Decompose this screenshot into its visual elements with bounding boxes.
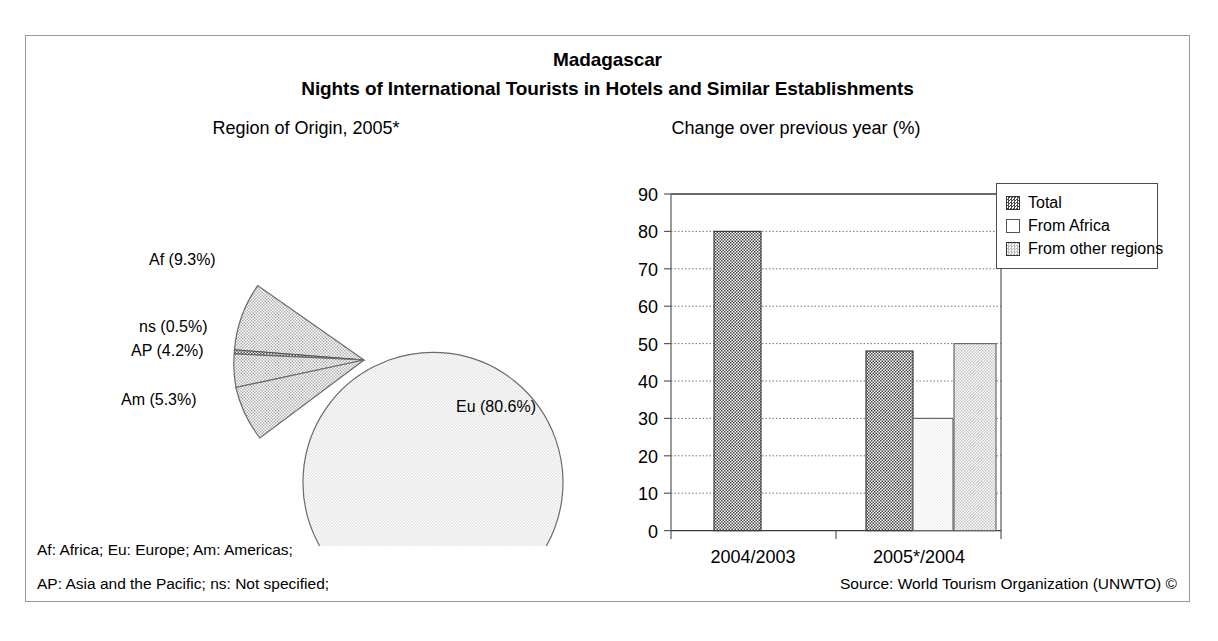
y-tick-0: 0 xyxy=(648,522,658,542)
legend-label-from-africa: From Africa xyxy=(1028,217,1110,235)
legend-swatch-from-other-regions-icon xyxy=(1006,242,1020,256)
y-tick-labels: 90 80 70 60 50 40 30 20 10 0 xyxy=(638,185,658,542)
chart-frame: Madagascar Nights of International Touri… xyxy=(25,35,1190,602)
y-tick-20: 20 xyxy=(638,447,658,467)
page-subtitle: Nights of International Tourists in Hote… xyxy=(26,78,1189,100)
y-tick-40: 40 xyxy=(638,372,658,392)
pie-slice-af xyxy=(235,286,365,360)
pie-chart-heading: Region of Origin, 2005* xyxy=(66,118,546,139)
footnote-abbreviations-line2: AP: Asia and the Pacific; ns: Not specif… xyxy=(37,575,329,593)
legend-item-from-other-regions[interactable]: From other regions xyxy=(1006,237,1148,260)
pie-chart-svg xyxy=(31,146,591,546)
legend-item-from-africa[interactable]: From Africa xyxy=(1006,214,1148,237)
bar-total-2005-2004 xyxy=(866,351,913,531)
x-tick-2005-2004: 2005*/2004 xyxy=(873,547,965,566)
y-tick-10: 10 xyxy=(638,484,658,504)
pie-label-eu: Eu (80.6%) xyxy=(456,398,536,416)
legend-label-total: Total xyxy=(1028,194,1062,212)
pie-label-af: Af (9.3%) xyxy=(149,251,216,269)
legend-item-total[interactable]: Total xyxy=(1006,191,1148,214)
legend-swatch-total-icon xyxy=(1006,196,1020,210)
bar-africa-2005-2004 xyxy=(913,418,953,530)
legend-label-from-other-regions: From other regions xyxy=(1028,240,1163,258)
y-tick-60: 60 xyxy=(638,297,658,317)
pie-slice-eu xyxy=(303,352,563,546)
legend-swatch-from-africa-icon xyxy=(1006,219,1020,233)
y-tick-marks xyxy=(664,194,671,531)
y-tick-70: 70 xyxy=(638,260,658,280)
pie-label-ns: ns (0.5%) xyxy=(139,318,207,336)
pie-label-ap: AP (4.2%) xyxy=(131,342,204,360)
bar-chart-heading: Change over previous year (%) xyxy=(586,118,1006,139)
pie-chart: Af (9.3%) ns (0.5%) AP (4.2%) Am (5.3%) … xyxy=(31,146,591,546)
source-note: Source: World Tourism Organization (UNWT… xyxy=(840,575,1177,593)
bar-total-2004-2003 xyxy=(714,231,761,530)
bar-chart-legend: Total From Africa From other regions xyxy=(996,183,1158,269)
pie-label-am: Am (5.3%) xyxy=(121,391,197,409)
bar-other-2005-2004 xyxy=(954,344,996,531)
x-tick-2004-2003: 2004/2003 xyxy=(710,547,795,566)
page-title: Madagascar xyxy=(26,49,1189,71)
y-tick-30: 30 xyxy=(638,409,658,429)
y-tick-50: 50 xyxy=(638,335,658,355)
x-tick-marks xyxy=(671,531,1001,539)
footnote-abbreviations-line1: Af: Africa; Eu: Europe; Am: Americas; xyxy=(37,541,293,559)
x-tick-labels: 2004/2003 2005*/2004 xyxy=(710,547,965,566)
y-tick-90: 90 xyxy=(638,185,658,205)
y-tick-80: 80 xyxy=(638,222,658,242)
